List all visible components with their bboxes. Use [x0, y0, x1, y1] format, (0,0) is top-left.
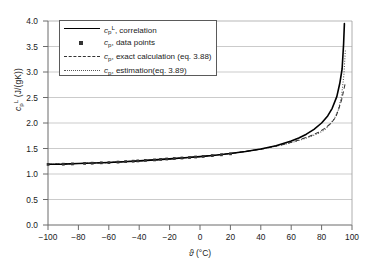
y-axis-superscript: L: [12, 100, 19, 104]
legend-sample-dashed-line: [64, 50, 100, 63]
y-tick-label: 1.0: [14, 169, 38, 179]
legend-entry-estimation: cp, estimation(eq. 3.89): [60, 64, 216, 77]
x-tick-label: 60: [274, 232, 308, 242]
series-exact-calculation: [48, 83, 345, 165]
y-axis-subscript: p: [17, 103, 24, 107]
legend-sample-solid-line: [64, 22, 100, 35]
x-tick-label: −20: [153, 232, 187, 242]
x-tick-label: 20: [213, 232, 247, 242]
legend: cpL, correlation cp, data points cp, exa…: [59, 20, 217, 76]
x-axis-ticks: [48, 225, 352, 230]
x-axis-unit: (°C): [194, 248, 212, 258]
x-tick-label: 0: [183, 232, 217, 242]
x-tick-label: 40: [244, 232, 278, 242]
y-tick-label: 4.0: [14, 16, 38, 26]
legend-label: , exact calculation (eq. 3.88): [111, 52, 211, 61]
x-tick-label: −60: [92, 232, 126, 242]
x-axis-title: ϑ (°C): [48, 248, 352, 258]
legend-entry-exact-calculation: cp, exact calculation (eq. 3.88): [60, 50, 216, 63]
y-tick-label: 0.5: [14, 195, 38, 205]
legend-label: , correlation: [115, 25, 157, 34]
x-tick-label: −80: [61, 232, 95, 242]
x-tick-label: −100: [31, 232, 65, 242]
legend-entry-data-points: cp, data points: [60, 36, 216, 49]
y-tick-label: 0.0: [14, 220, 38, 230]
legend-sample-dotted-line: [64, 64, 100, 77]
legend-entry-correlation: cpL, correlation: [60, 22, 216, 35]
y-axis-unit: (J/(gK)): [13, 68, 23, 100]
x-tick-label: 100: [335, 232, 369, 242]
legend-label: , estimation(eq. 3.89): [111, 66, 186, 75]
y-axis-symbol: c: [13, 107, 23, 111]
y-tick-label: 1.5: [14, 144, 38, 154]
y-axis-ticks: [43, 21, 48, 225]
chart-figure: 4.0 3.5 3.0 2.5 2.0 1.5 1.0 0.5 0.0 −100…: [0, 0, 377, 267]
y-axis-title: cpL (J/(gK)): [12, 42, 23, 138]
legend-label: , data points: [111, 38, 155, 47]
x-tick-label: −40: [122, 232, 156, 242]
x-tick-label: 80: [305, 232, 339, 242]
legend-sample-square-marker: [64, 36, 100, 49]
